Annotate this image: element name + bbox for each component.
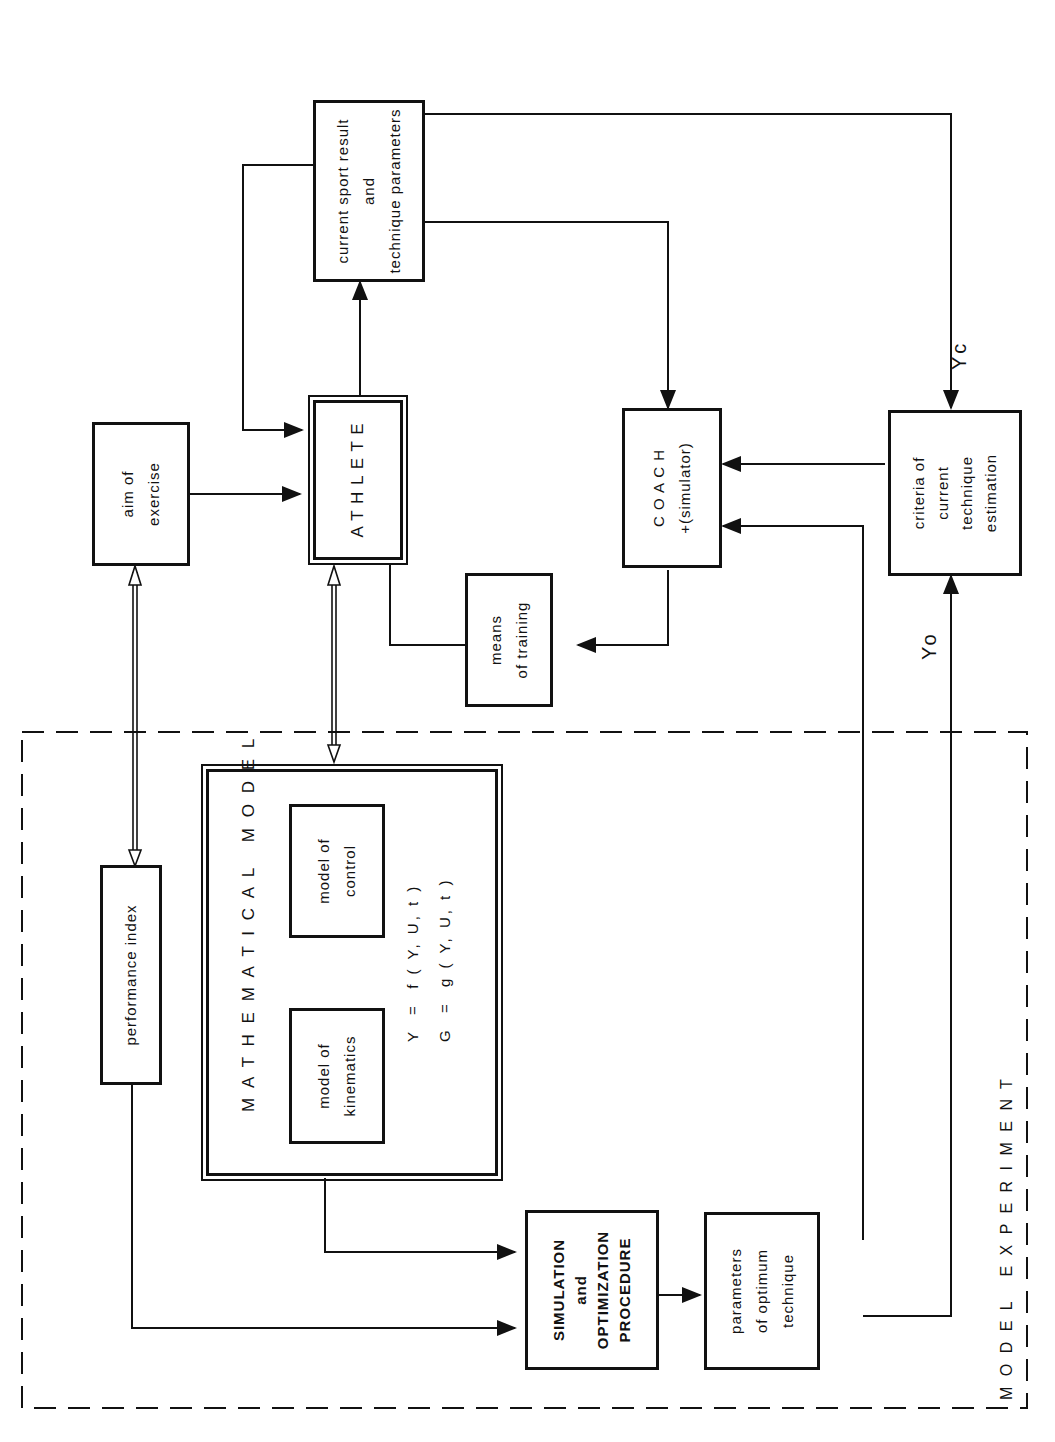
means-box: means of training — [465, 573, 553, 707]
current-result-label: current sport result and technique param… — [330, 108, 408, 273]
coach-box: C O A C H +(simulator) — [622, 408, 722, 568]
current-result-box: current sport result and technique param… — [313, 100, 425, 282]
athlete-label: A T H L E T E — [345, 422, 371, 537]
criteria-box: criteria of current technique estimation — [888, 410, 1022, 576]
equations: Y = f ( Y, U, t ) G = g ( Y, U, t ) — [397, 878, 461, 1042]
aim-box: aim of exercise — [92, 422, 190, 566]
control-label: model of control — [311, 838, 363, 904]
model-experiment-label: M O D E L E X P E R I M E N T — [998, 1076, 1016, 1400]
means-label: means of training — [483, 602, 535, 679]
coach-label: C O A C H +(simulator) — [646, 442, 698, 534]
simulation-box: SIMULATION and OPTIMIZATION PROCEDURE — [525, 1210, 659, 1370]
math-model-box: M A T H E M A T I C A L M O D E L model … — [206, 769, 498, 1176]
control-box: model of control — [289, 804, 385, 938]
math-title: M A T H E M A T I C A L M O D E L — [239, 736, 259, 1112]
kinematics-label: model of kinematics — [311, 1036, 363, 1117]
diagram: current sport result and technique param… — [0, 0, 1055, 1442]
simulation-label: SIMULATION and OPTIMIZATION PROCEDURE — [548, 1231, 636, 1349]
kinematics-box: model of kinematics — [289, 1008, 385, 1144]
aim-label: aim of exercise — [115, 462, 167, 526]
performance-label: performance index — [118, 904, 144, 1045]
athlete-box: A T H L E T E — [313, 400, 403, 560]
criteria-label: criteria of current technique estimation — [907, 454, 1003, 532]
yo-label: Yo — [918, 631, 941, 660]
yc-label: Yc — [948, 341, 971, 370]
performance-box: performance index — [100, 865, 162, 1085]
parameters-label: parameters of optimum technique — [723, 1248, 801, 1334]
parameters-box: parameters of optimum technique — [704, 1212, 820, 1370]
